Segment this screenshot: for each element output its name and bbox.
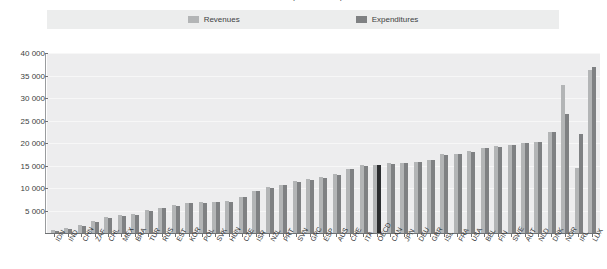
- bar-group[interactable]: [518, 53, 531, 233]
- x-axis-label-cell: CAN: [384, 238, 397, 269]
- bar-expenditures[interactable]: [404, 163, 408, 233]
- bar-expenditures[interactable]: [216, 202, 220, 233]
- chart-figure: Revenues and expenditures per student Re…: [0, 0, 607, 269]
- bar-expenditures[interactable]: [377, 165, 381, 233]
- bar-expenditures[interactable]: [243, 197, 247, 233]
- bar-group[interactable]: [505, 53, 518, 233]
- bar-expenditures[interactable]: [579, 134, 583, 233]
- x-axis-label-cell: ISR: [250, 238, 263, 269]
- bar-group[interactable]: [559, 53, 572, 233]
- bar-group[interactable]: [397, 53, 410, 233]
- x-axis-label-cell: HUN: [223, 238, 236, 269]
- bar-group[interactable]: [303, 53, 316, 233]
- bar-group[interactable]: [491, 53, 504, 233]
- legend-label-revenues: Revenues: [204, 15, 240, 24]
- bar-group[interactable]: [196, 53, 209, 233]
- bar-expenditures[interactable]: [498, 147, 502, 233]
- x-axis-label-cell: CHN: [75, 238, 88, 269]
- bar-group[interactable]: [424, 53, 437, 233]
- bar-expenditures[interactable]: [391, 164, 395, 233]
- bar-group[interactable]: [156, 53, 169, 233]
- x-axis-label-cell: PRT: [276, 238, 289, 269]
- x-axis-label-cell: SVN: [290, 238, 303, 269]
- bar-group[interactable]: [465, 53, 478, 233]
- bar-group[interactable]: [357, 53, 370, 233]
- x-axis-label-cell: SVK: [209, 238, 222, 269]
- bar-group[interactable]: [371, 53, 384, 233]
- bar-group[interactable]: [478, 53, 491, 233]
- bar-group[interactable]: [88, 53, 101, 233]
- bar-group[interactable]: [142, 53, 155, 233]
- x-axis-label-cell: FRA: [451, 238, 464, 269]
- bar-group[interactable]: [250, 53, 263, 233]
- bar-group[interactable]: [586, 53, 599, 233]
- bar-group[interactable]: [75, 53, 88, 233]
- legend-swatch-expenditures: [356, 16, 367, 23]
- bar-expenditures[interactable]: [538, 142, 542, 233]
- bar-group[interactable]: [209, 53, 222, 233]
- bar-expenditures[interactable]: [592, 67, 596, 233]
- bar-group[interactable]: [572, 53, 585, 233]
- y-axis-tick-mark: [45, 76, 48, 77]
- bar-expenditures[interactable]: [364, 166, 368, 234]
- bar-expenditures[interactable]: [337, 175, 341, 234]
- x-axis-label-cell: GBR: [424, 238, 437, 269]
- bar-group[interactable]: [344, 53, 357, 233]
- bar-expenditures[interactable]: [203, 203, 207, 233]
- x-axis-label-cell: BRA: [129, 238, 142, 269]
- bar-group[interactable]: [169, 53, 182, 233]
- x-axis-label-cell: BEL: [478, 238, 491, 269]
- y-axis-tick-mark: [45, 188, 48, 189]
- bar-expenditures[interactable]: [552, 132, 556, 233]
- bar-series-container: [47, 53, 600, 233]
- x-axis-label-cell: AUS: [330, 238, 343, 269]
- x-axis-label-cell: EST: [169, 238, 182, 269]
- bar-group[interactable]: [532, 53, 545, 233]
- x-axis-label-cell: CHL: [102, 238, 115, 269]
- bar-group[interactable]: [236, 53, 249, 233]
- x-axis-label-cell: IDN: [48, 238, 61, 269]
- bar-expenditures[interactable]: [512, 145, 516, 233]
- bar-group[interactable]: [384, 53, 397, 233]
- bar-expenditures[interactable]: [310, 180, 314, 233]
- bar-group[interactable]: [223, 53, 236, 233]
- bar-group[interactable]: [438, 53, 451, 233]
- bar-expenditures[interactable]: [565, 114, 569, 233]
- bar-expenditures[interactable]: [458, 154, 462, 233]
- x-axis-label-cell: ISL: [438, 238, 451, 269]
- bar-group[interactable]: [61, 53, 74, 233]
- bar-group[interactable]: [276, 53, 289, 233]
- bar-group[interactable]: [48, 53, 61, 233]
- y-axis-tick-label: 30 000: [3, 94, 45, 103]
- bar-expenditures[interactable]: [471, 152, 475, 233]
- bar-expenditures[interactable]: [256, 191, 260, 233]
- bar-expenditures[interactable]: [176, 206, 180, 233]
- bar-expenditures[interactable]: [323, 178, 327, 233]
- bar-expenditures[interactable]: [297, 182, 301, 233]
- bar-group[interactable]: [290, 53, 303, 233]
- bar-expenditures[interactable]: [270, 188, 274, 233]
- legend-item-expenditures: Expenditures: [356, 15, 419, 24]
- x-axis-label-cell: NLD: [532, 238, 545, 269]
- bar-expenditures[interactable]: [444, 155, 448, 233]
- chart-title: Revenues and expenditures per student: [0, 0, 607, 1]
- bar-group[interactable]: [102, 53, 115, 233]
- bar-group[interactable]: [129, 53, 142, 233]
- bar-group[interactable]: [545, 53, 558, 233]
- x-axis-label-cell: ITA: [357, 238, 370, 269]
- bar-group[interactable]: [263, 53, 276, 233]
- bar-group[interactable]: [451, 53, 464, 233]
- bar-expenditures[interactable]: [350, 169, 354, 233]
- bar-expenditures[interactable]: [485, 148, 489, 233]
- bar-group[interactable]: [182, 53, 195, 233]
- bar-group[interactable]: [330, 53, 343, 233]
- x-axis-label-cell: SWE: [505, 238, 518, 269]
- bar-group[interactable]: [115, 53, 128, 233]
- bar-expenditures[interactable]: [431, 160, 435, 233]
- bar-expenditures[interactable]: [283, 185, 287, 233]
- bar-expenditures[interactable]: [418, 162, 422, 233]
- bar-group[interactable]: [317, 53, 330, 233]
- bar-expenditures[interactable]: [525, 143, 529, 233]
- y-axis-tick-mark: [45, 53, 48, 54]
- bar-group[interactable]: [411, 53, 424, 233]
